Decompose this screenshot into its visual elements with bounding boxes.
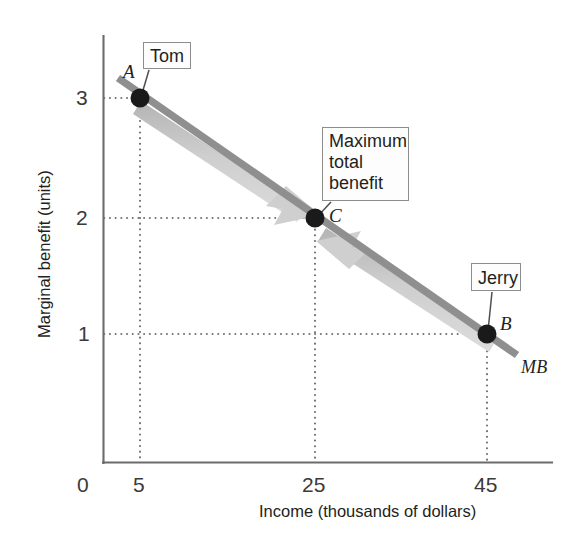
y-axis-title: Marginal benefit (units)	[36, 170, 53, 338]
data-point-a	[131, 89, 150, 108]
point-label-c: C	[329, 206, 342, 225]
x-axis-title: Income (thousands of dollars)	[259, 503, 476, 520]
origin-label: 0	[77, 474, 89, 495]
mb-curve-label: MB	[521, 358, 548, 376]
point-label-b: B	[500, 314, 512, 333]
data-point-c	[306, 209, 325, 228]
gridlines	[104, 98, 487, 462]
data-point-b	[478, 325, 497, 344]
y-tick-label-2: 2	[76, 207, 88, 228]
marginal-benefit-chart: 3 2 1 0 5 25 45 Marginal benefit (units)…	[0, 0, 586, 534]
callout-maximum-total-benefit: Maximum total benefit	[322, 127, 409, 201]
x-tick-label-25: 25	[302, 474, 325, 495]
y-tick-label-1: 1	[78, 323, 90, 344]
y-tick-label-3: 3	[76, 87, 88, 108]
callout-leaders	[141, 70, 492, 331]
callout-jerry: Jerry	[471, 263, 521, 291]
x-tick-label-45: 45	[474, 474, 497, 495]
x-tick-label-5: 5	[133, 474, 145, 495]
callout-tom: Tom	[143, 42, 191, 69]
point-label-a: A	[123, 62, 135, 81]
